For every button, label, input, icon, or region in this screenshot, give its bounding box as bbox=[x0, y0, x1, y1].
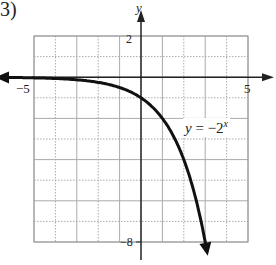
curve-bottom-arrow-icon bbox=[199, 242, 211, 256]
equation-rhs: = −2 bbox=[192, 120, 224, 136]
function-curve bbox=[3, 77, 206, 247]
equation-label: y = −2x bbox=[183, 118, 230, 137]
x-axis-arrow-icon bbox=[262, 73, 274, 81]
curve-left-arrow-icon bbox=[0, 71, 9, 83]
y-tick-2: 2 bbox=[126, 32, 132, 47]
y-tick-neg8: −8 bbox=[120, 235, 133, 250]
function-graph bbox=[0, 0, 276, 265]
y-axis-label: y bbox=[136, 0, 142, 16]
equation-y: y bbox=[185, 120, 192, 136]
equation-exponent: x bbox=[224, 118, 228, 129]
x-tick-5: 5 bbox=[244, 81, 251, 97]
x-tick-neg5: −5 bbox=[16, 81, 30, 97]
